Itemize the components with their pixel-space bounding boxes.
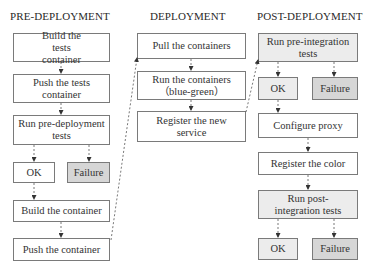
flow-arrows (0, 0, 365, 270)
